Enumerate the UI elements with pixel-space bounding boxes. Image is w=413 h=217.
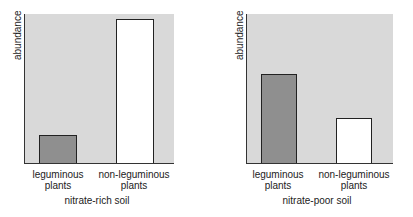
y-axis-label: abundance <box>12 11 23 61</box>
y-axis-label: abundance <box>234 11 245 61</box>
bar-leguminous <box>39 135 77 163</box>
x-axis-label: nitrate-poor soil <box>242 195 392 206</box>
bar-non-leguminous <box>336 118 372 163</box>
category-label-leguminous: leguminous plants <box>238 169 318 191</box>
category-label-non-leguminous: non-leguminous plants <box>94 169 174 191</box>
bar-non-leguminous <box>116 19 154 163</box>
category-label-leguminous: leguminous plants <box>18 169 98 191</box>
chart-nitrate-rich: abundance leguminous plants non-legumino… <box>0 0 200 217</box>
plot-area <box>246 14 393 164</box>
category-label-non-leguminous: non-leguminous plants <box>314 169 394 191</box>
bar-leguminous <box>261 74 297 163</box>
plot-area <box>24 14 174 164</box>
chart-nitrate-poor: abundance leguminous plants non-legumino… <box>213 0 413 217</box>
x-axis-label: nitrate-rich soil <box>22 195 172 206</box>
